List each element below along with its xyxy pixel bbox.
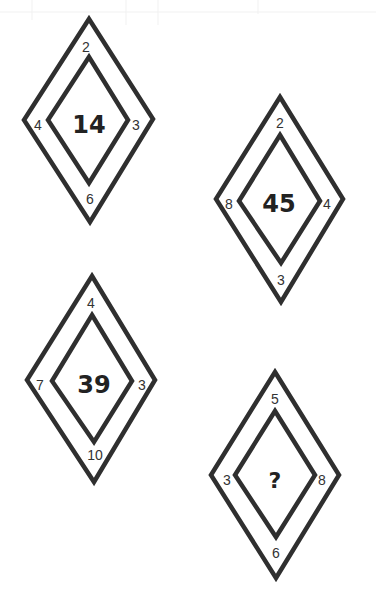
bottom-number: 10 [87,447,103,463]
diamond-2: 284345 [216,97,343,302]
left-number: 4 [34,117,42,133]
right-number: 3 [132,117,140,133]
unknown-answer: ? [269,468,282,493]
bottom-number: 6 [272,545,280,561]
diamond-1: 243614 [24,19,153,222]
top-number: 2 [276,115,284,131]
top-number: 4 [87,295,95,311]
center-number: 45 [262,190,295,218]
background-grid [0,0,376,25]
right-number: 4 [323,196,331,212]
top-number: 2 [82,39,90,55]
top-number: 5 [271,391,279,407]
center-number: 14 [72,111,105,139]
center-number: 39 [77,371,110,399]
bottom-number: 3 [277,272,285,288]
diamond-3: 4731039 [27,276,155,482]
bottom-number: 6 [86,191,94,207]
left-number: 8 [225,196,233,212]
left-number: 7 [36,377,44,393]
diamond-group: 24361428434547310395386? [24,19,343,578]
right-number: 8 [318,472,326,488]
diamond-4: 5386? [211,372,339,578]
left-number: 3 [223,472,231,488]
right-number: 3 [138,377,146,393]
puzzle-canvas: 24361428434547310395386? [0,0,376,599]
